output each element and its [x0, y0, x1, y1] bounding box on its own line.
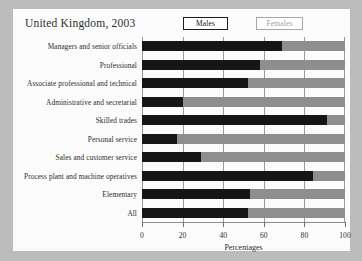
x-axis-tick-label: 60	[260, 231, 268, 240]
bar-row[interactable]: Associate professional and technical	[142, 78, 345, 88]
x-axis-tick	[264, 222, 265, 227]
x-axis-tick	[304, 222, 305, 227]
plot-area: Percentages 020406080100Managers and sen…	[142, 37, 345, 222]
x-axis-label: Percentages	[224, 243, 262, 252]
bar-row[interactable]: Elementary	[142, 189, 345, 199]
x-axis-tick	[183, 222, 184, 227]
category-label: Personal service	[88, 134, 137, 143]
bar-row[interactable]: Personal service	[142, 134, 345, 144]
bar-segment-males[interactable]	[142, 171, 313, 181]
legend-label-females: Females	[266, 19, 292, 28]
bar-segment-females[interactable]	[327, 115, 345, 125]
bar-segment-females[interactable]	[260, 60, 345, 70]
x-axis-tick	[142, 222, 143, 227]
bar-segment-females[interactable]	[183, 97, 345, 107]
bar-row[interactable]: Administrative and secretarial	[142, 97, 345, 107]
x-axis-tick	[345, 222, 346, 227]
legend-item-males[interactable]: Males	[183, 17, 228, 30]
category-label: Managers and senior officials	[48, 42, 137, 51]
bar-segment-males[interactable]	[142, 115, 327, 125]
page-background: United Kingdom, 2003 Males Females Perce…	[0, 0, 362, 261]
x-axis-tick	[223, 222, 224, 227]
category-label: Sales and customer service	[56, 153, 137, 162]
category-label: All	[127, 208, 137, 217]
bar-segment-females[interactable]	[177, 134, 345, 144]
bar-segment-females[interactable]	[250, 189, 345, 199]
category-label: Elementary	[102, 190, 137, 199]
bar-row[interactable]: Managers and senior officials	[142, 41, 345, 51]
bar-segment-males[interactable]	[142, 152, 201, 162]
bar-row[interactable]: Skilled trades	[142, 115, 345, 125]
legend-label-males: Males	[196, 19, 215, 28]
bar-segment-males[interactable]	[142, 41, 282, 51]
bar-segment-males[interactable]	[142, 208, 248, 218]
x-axis-tick-label: 0	[140, 231, 144, 240]
x-axis-line	[142, 222, 345, 223]
bar-segment-males[interactable]	[142, 60, 260, 70]
bar-row[interactable]: Process plant and machine operatives	[142, 171, 345, 181]
bar-row[interactable]: Professional	[142, 60, 345, 70]
bar-segment-females[interactable]	[313, 171, 345, 181]
bar-segment-females[interactable]	[248, 78, 345, 88]
category-label: Administrative and secretarial	[46, 97, 137, 106]
bar-segment-females[interactable]	[248, 208, 345, 218]
legend-item-females[interactable]: Females	[256, 17, 303, 30]
bar-segment-males[interactable]	[142, 189, 250, 199]
bar-segment-males[interactable]	[142, 134, 177, 144]
bar-segment-males[interactable]	[142, 97, 183, 107]
bar-segment-females[interactable]	[282, 41, 345, 51]
category-label: Skilled trades	[96, 116, 137, 125]
x-axis-tick-label: 100	[339, 231, 350, 240]
bar-row[interactable]: All	[142, 208, 345, 218]
x-axis-tick-label: 20	[179, 231, 187, 240]
x-axis-tick-label: 80	[301, 231, 309, 240]
category-label: Associate professional and technical	[27, 79, 137, 88]
x-axis-tick-label: 40	[219, 231, 227, 240]
category-label: Professional	[100, 60, 137, 69]
chart-card: United Kingdom, 2003 Males Females Perce…	[13, 9, 350, 251]
chart-title: United Kingdom, 2003	[25, 17, 135, 29]
category-label: Process plant and machine operatives	[24, 171, 137, 180]
bar-segment-males[interactable]	[142, 78, 248, 88]
bar-segment-females[interactable]	[201, 152, 345, 162]
bar-row[interactable]: Sales and customer service	[142, 152, 345, 162]
chart-legend: Males Females	[183, 15, 333, 33]
